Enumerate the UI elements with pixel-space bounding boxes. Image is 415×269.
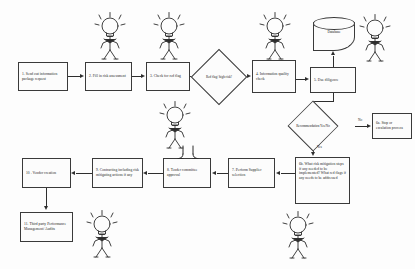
node-vendor-creation[interactable]: 10 . Vendor creation [22,158,71,188]
diamond-text-wrap: Red flag/ high risk? [199,57,239,97]
node-third-party-performance-management-audits[interactable]: 11. Third party Performance Management/ … [20,212,73,242]
arrowhead-4-to-5 [305,77,309,81]
arrowhead-8-to-9 [143,171,147,175]
edge-4-to-5 [296,79,305,80]
node-tender-committee-approval[interactable]: 8. Tender committee approval [163,158,211,188]
arrowhead-1-to-2 [80,74,84,78]
stick-figure-legs-icon [171,145,205,161]
database-cylinder[interactable]: Database [313,17,355,51]
arrowhead-9-to-10 [71,171,75,175]
edge-8-to-9 [148,173,163,174]
edge-5-to-decision2-h [313,101,334,102]
node-label: 6b. What risk mitigation steps if any ne… [299,162,346,181]
node-label: 6a. Stop or escalation process [376,121,408,130]
flowchart-canvas: 1. Send out information package request … [0,0,415,269]
stick-figure-lightbulb-icon [281,211,315,261]
node-label: Red flag/ high risk? [206,75,232,79]
stick-figure-lightbulb-icon [258,12,292,62]
stick-figure-lightbulb-icon [93,12,127,62]
node-label: 1. Send out information package request [22,72,64,81]
node-check-for-red-flag[interactable]: 3. Check for red flag [146,62,190,91]
arrowhead-6b-to-7 [276,171,280,175]
node-label: 2. Fill in risk assessment [89,74,126,79]
node-label: 9. Contracting including risk mitigating… [96,168,139,177]
arrowhead-10-to-11 [44,206,48,210]
node-label: 3. Check for red flag [150,74,181,79]
edge-6b-to-7 [281,173,295,174]
edge-label-no: No [358,118,362,122]
arrowhead-decision1-to-4 [247,74,251,78]
node-label: 7. Perform Supplier selection [232,168,271,177]
database-label: Database [313,30,355,34]
node-label: 5. Due diligence [314,78,338,83]
decision-red-flag-high-risk[interactable]: Red flag/ high risk? [199,57,239,97]
node-label: 8. Tender committee approval [167,168,207,177]
node-due-diligence[interactable]: 5. Due diligence [310,67,356,93]
edge-label-yes: Yes [317,145,322,149]
stick-figure-lightbulb-icon [85,210,119,260]
stick-figure-lightbulb-icon [358,14,392,64]
node-stop-or-escalation-process[interactable]: 6a. Stop or escalation process [372,113,412,139]
node-information-quality-check[interactable]: 4. Information quality check [252,60,296,93]
edge-9-to-10 [76,173,92,174]
node-perform-supplier-selection[interactable]: 7. Perform Supplier selection [228,158,275,188]
node-label: Recommendation Yes/No [296,124,330,128]
arrowhead-2-to-3 [141,74,145,78]
arrowhead-7-to-8 [212,171,216,175]
node-label: 10 . Vendor creation [26,171,56,176]
edge-7-to-8 [217,173,228,174]
decision-recommendation-yes-no[interactable]: Recommendation Yes/No [288,108,338,144]
arrowhead-5-to-database [331,51,335,55]
diamond-text-wrap: Recommendation Yes/No [288,108,338,144]
edge-5-down [333,93,334,101]
stick-figure-lightbulb-icon [158,101,192,151]
node-send-information-package-request[interactable]: 1. Send out information package request [18,62,68,91]
node-label: 4. Information quality check [256,72,292,81]
node-risk-mitigation-steps[interactable]: 6b. What risk mitigation steps if any ne… [295,157,350,204]
edge-decision2-to-6a [355,126,367,127]
arrowhead-decision2-to-6b [311,152,315,156]
node-label: 11. Third party Performance Management/ … [24,222,69,231]
node-contracting-including-risk-mitigating-actions[interactable]: 9. Contracting including risk mitigating… [92,158,143,188]
node-fill-in-risk-assessment[interactable]: 2. Fill in risk assessment [85,62,132,91]
edge-2-to-3 [132,76,141,77]
edge-1-to-2 [68,76,80,77]
stick-figure-lightbulb-icon [152,12,186,62]
arrowhead-decision2-to-6a [367,124,371,128]
edge-10-to-11 [46,188,47,206]
cylinder-top [313,17,355,30]
